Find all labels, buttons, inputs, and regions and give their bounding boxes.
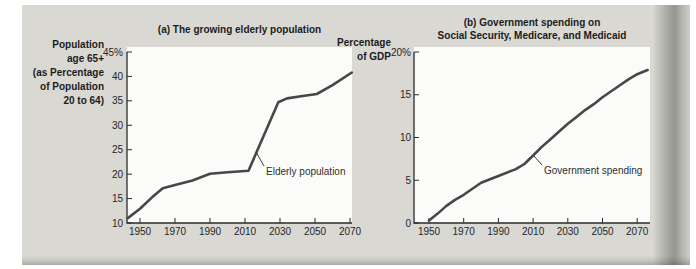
svg-text:1950: 1950 (418, 226, 441, 237)
government-spending-annotation: Government spending (544, 165, 642, 176)
ylab-b-line: of GDP (306, 50, 391, 64)
ylab-a-line: 20 to 64) (18, 94, 104, 108)
ylab-a-line: Population (18, 38, 104, 52)
svg-text:1990: 1990 (487, 226, 510, 237)
panel-b-y-axis-label: Percentage of GDP (306, 36, 391, 64)
svg-text:2010: 2010 (522, 226, 545, 237)
svg-text:2070: 2070 (626, 226, 649, 237)
svg-text:5: 5 (405, 175, 411, 186)
svg-text:1970: 1970 (453, 226, 476, 237)
ylab-a-line: age 65+ (18, 52, 104, 66)
panel-b-title-line2: Social Security, Medicare, and Medicaid (438, 30, 627, 41)
svg-text:2030: 2030 (557, 226, 580, 237)
ylab-b-line: Percentage (306, 36, 391, 50)
panel-a-title: (a) The growing elderly population (127, 24, 352, 37)
elderly-population-annotation: Elderly population (266, 166, 346, 177)
svg-text:20%: 20% (391, 47, 411, 58)
svg-text:0: 0 (405, 218, 411, 229)
ylab-a-line: of Population (18, 80, 104, 94)
svg-text:15: 15 (400, 89, 412, 100)
svg-text:2050: 2050 (591, 226, 614, 237)
textbook-figure: 1015202530354045%19501970199020102030205… (0, 0, 696, 269)
svg-text:10: 10 (400, 132, 412, 143)
panel-b-title-line1: (b) Government spending on (464, 17, 601, 28)
panel-b-title: (b) Government spending on Social Securi… (404, 17, 660, 42)
panel-a-y-axis-label: Population age 65+ (as Percentage of Pop… (18, 38, 104, 108)
ylab-a-line: (as Percentage (18, 66, 104, 80)
